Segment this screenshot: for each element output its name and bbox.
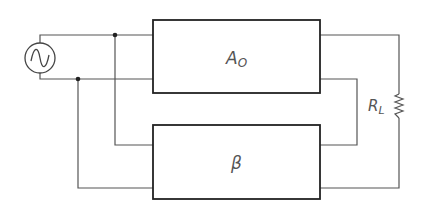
wire-a-out-top: [320, 35, 399, 94]
junction-dot: [76, 77, 81, 82]
wire-beta-to-load: [320, 118, 399, 188]
wire-source-bottom: [40, 73, 153, 79]
feedback-label: β: [230, 153, 242, 173]
junction-dot: [113, 33, 118, 38]
load-label: RL: [368, 97, 385, 117]
wire-junction1-to-beta: [115, 35, 153, 145]
ac-source: [25, 43, 55, 73]
wire-a-out-bottom-to-beta: [320, 79, 357, 145]
wire-source-top: [40, 35, 153, 43]
resistor-icon: [395, 94, 403, 118]
circuit-diagram: AO β RL: [0, 0, 430, 208]
